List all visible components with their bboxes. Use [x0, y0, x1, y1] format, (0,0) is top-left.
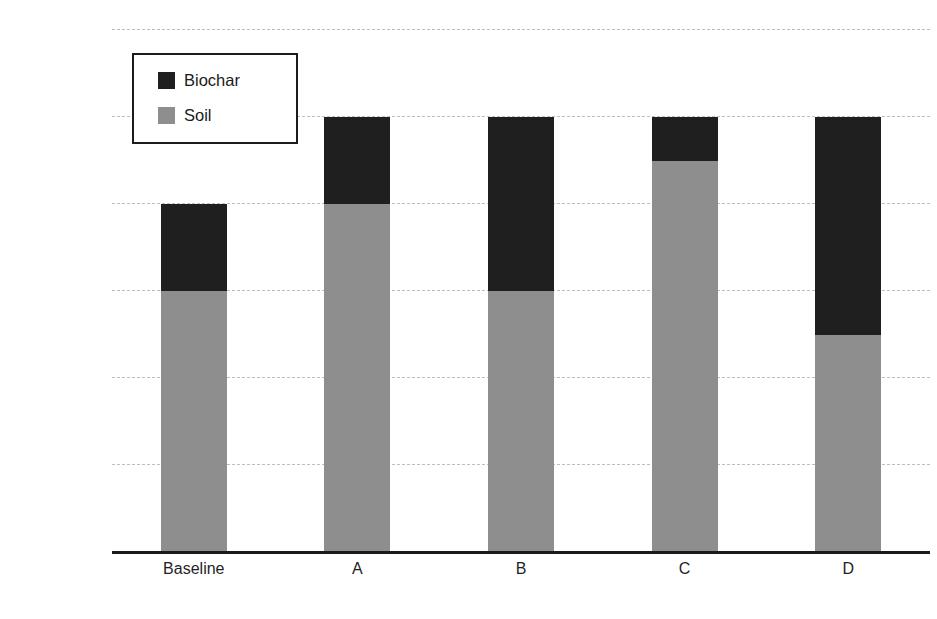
- x-tick-label: Baseline: [112, 560, 276, 578]
- bar-segment-soil: [161, 291, 227, 552]
- legend-label-soil: Soil: [184, 106, 212, 125]
- x-tick-label: D: [766, 560, 930, 578]
- bar-segment-soil: [652, 161, 718, 553]
- bar-segment-biochar: [161, 204, 227, 291]
- bar-group: [324, 117, 390, 552]
- bar-segment-soil: [324, 204, 390, 552]
- legend-entry-soil: Soil: [158, 106, 212, 125]
- bar-segment-soil: [815, 335, 881, 553]
- bar-segment-biochar: [488, 117, 554, 291]
- bar-group: [652, 117, 718, 552]
- x-tick-label: B: [439, 560, 603, 578]
- bar-segment-biochar: [815, 117, 881, 335]
- x-axis-tick-labels: BaselineABCD: [112, 560, 930, 590]
- bar-group: [815, 117, 881, 552]
- bar-segment-soil: [488, 291, 554, 552]
- chart-figure: Carbon Mineralization (arbitrary units) …: [0, 0, 937, 619]
- x-tick-label: A: [276, 560, 440, 578]
- square-swatch-gray-icon: [158, 107, 175, 124]
- legend-label-biochar: Biochar: [184, 71, 240, 90]
- x-axis-line: [112, 551, 930, 554]
- x-tick-label: C: [603, 560, 767, 578]
- bar-segment-biochar: [324, 117, 390, 204]
- bar-segment-biochar: [652, 117, 718, 161]
- y-axis-title: Carbon Mineralization (arbitrary units): [0, 0, 60, 619]
- bar-group: [161, 204, 227, 552]
- bar-group: [488, 117, 554, 552]
- legend: Biochar Soil: [132, 53, 298, 144]
- square-swatch-dark-icon: [158, 72, 175, 89]
- legend-entry-biochar: Biochar: [158, 71, 240, 90]
